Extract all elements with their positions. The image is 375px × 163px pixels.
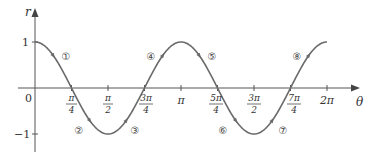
x-tick-label-5pi4: 5π 4: [209, 93, 223, 115]
segment-label-7: ⑦: [279, 125, 288, 136]
svg-text:2: 2: [250, 105, 257, 115]
y-axis-arrow-icon: [32, 8, 39, 17]
y-tick-label-neg1: −1: [14, 128, 30, 141]
segment-label-1: ①: [62, 51, 71, 62]
svg-text:4: 4: [290, 105, 297, 115]
origin-label: 0: [25, 92, 32, 105]
segment-label-8: ⑧: [293, 51, 302, 62]
svg-text:π: π: [104, 93, 112, 103]
polar-graph-cartesian: r θ 0 1 −1 π 4 π 2 3π 4 π 5π 4 3π 2 7π 4…: [0, 0, 375, 163]
svg-text:7π: 7π: [288, 93, 301, 103]
segment-label-3: ③: [131, 125, 140, 136]
x-tick-label-2pi: 2π: [319, 94, 335, 107]
segment-label-2: ②: [75, 125, 84, 136]
x-tick-label-7pi4: 7π 4: [287, 93, 301, 115]
segment-label-6: ⑥: [219, 125, 228, 136]
svg-text:3π: 3π: [140, 93, 153, 103]
svg-text:4: 4: [68, 105, 75, 115]
svg-text:4: 4: [212, 105, 219, 115]
x-tick-label-pi2: π 2: [103, 93, 113, 115]
svg-text:2: 2: [104, 105, 111, 115]
x-tick-label-pi: π: [176, 94, 185, 107]
svg-text:3π: 3π: [248, 93, 261, 103]
x-tick-label-3pi4: 3π 4: [139, 93, 153, 115]
segment-label-4: ④: [147, 51, 156, 62]
segment-label-5: ⑤: [208, 51, 217, 62]
y-tick-label-1: 1: [22, 36, 29, 49]
y-axis-label: r: [25, 5, 32, 19]
svg-text:π: π: [68, 93, 76, 103]
x-axis-label: θ: [356, 95, 364, 109]
x-axis-arrow-icon: [351, 85, 360, 92]
x-tick-label-3pi2: 3π 2: [247, 93, 261, 115]
svg-text:5π: 5π: [210, 93, 223, 103]
svg-text:4: 4: [142, 105, 149, 115]
